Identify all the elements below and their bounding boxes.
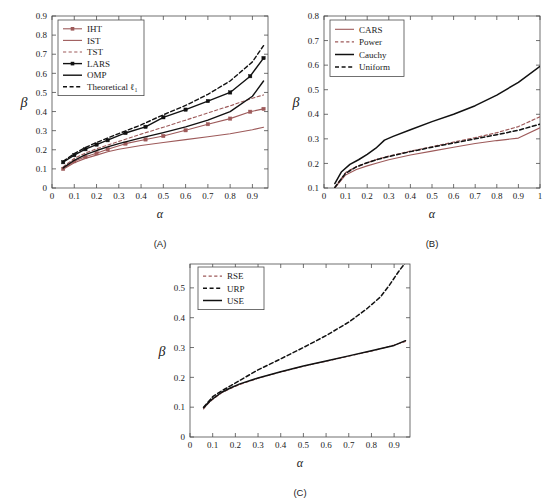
series-marker-A-3-12 [262,56,265,59]
x-tick-label-A-2: 0.2 [91,191,102,201]
x-tick-label-C-9: 0.9 [388,440,400,450]
y-tick-label-B-1: 0.2 [308,159,319,169]
y-tick-label-B-5: 0.6 [308,60,320,70]
legend-label-B-1: Power [359,37,382,47]
y-tick-label-C-0: 0 [181,432,186,442]
x-tick-label-C-1: 0.1 [207,440,218,450]
y-tick-label-B-3: 0.4 [308,109,320,119]
x-tick-label-A-8: 0.8 [225,191,237,201]
legend-label-B-0: CARS [359,25,383,35]
y-tick-label-A-6: 0.6 [36,69,48,79]
x-tick-label-B-10: 1 [538,191,543,201]
series-marker-A-0-10 [228,117,231,120]
x-axis-title-A: α [157,207,164,221]
chart-panel-b: 00.10.20.30.40.50.60.70.80.910.10.20.30.… [272,0,554,250]
series-marker-A-3-10 [228,91,231,94]
legend-label-C-1: URP [227,284,245,294]
x-tick-label-B-4: 0.4 [405,191,417,201]
legend-label-A-5: Theoretical ℓ₁ [87,82,138,92]
legend-marker-A-0 [71,27,75,31]
x-tick-label-B-2: 0.2 [362,191,373,201]
y-tick-label-B-2: 0.3 [308,134,320,144]
x-tick-label-C-3: 0.3 [252,440,264,450]
legend-label-C-2: USE [227,296,245,306]
x-tick-label-A-1: 0.1 [69,191,80,201]
x-tick-label-B-3: 0.3 [383,191,395,201]
x-tick-label-B-1: 0.1 [340,191,351,201]
y-tick-label-B-4: 0.5 [308,85,320,95]
x-tick-label-A-6: 0.6 [180,191,192,201]
x-tick-label-B-5: 0.5 [426,191,438,201]
x-tick-label-A-4: 0.4 [135,191,147,201]
y-tick-label-C-5: 0.5 [174,283,186,293]
x-tick-label-C-8: 0.8 [366,440,378,450]
series-marker-A-0-7 [162,134,165,137]
x-tick-label-A-9: 0.9 [247,191,259,201]
series-marker-A-0-8 [184,129,187,132]
x-tick-label-B-7: 0.7 [470,191,482,201]
x-tick-label-A-7: 0.7 [202,191,214,201]
legend-marker-A-3 [71,62,75,66]
panel-label-A: (A) [154,238,167,249]
x-axis-title-C: α [297,456,304,470]
y-tick-label-A-0: 0 [43,183,48,193]
legend-label-B-3: Uniform [359,62,390,72]
legend-label-B-2: Cauchy [359,50,387,60]
chart-svg-A: 00.10.20.30.40.50.60.70.80.900.10.20.30.… [0,0,280,250]
y-tick-label-B-0: 0.1 [308,183,319,193]
y-tick-label-C-3: 0.3 [174,343,186,353]
series-marker-A-0-11 [248,110,251,113]
y-tick-label-A-3: 0.3 [36,126,48,136]
x-tick-label-B-8: 0.8 [491,191,503,201]
x-tick-label-C-2: 0.2 [230,440,241,450]
x-tick-label-C-4: 0.4 [275,440,287,450]
y-tick-label-B-7: 0.8 [308,11,320,21]
legend-label-A-4: OMP [87,70,107,80]
y-axis-title-B: β [292,95,300,110]
x-tick-label-A-5: 0.5 [158,191,170,201]
x-tick-label-C-6: 0.6 [320,440,332,450]
series-marker-A-3-9 [206,99,209,102]
y-axis-title-C: β [158,344,166,359]
series-marker-A-3-8 [184,108,187,111]
series-marker-A-0-9 [206,122,209,125]
y-tick-label-A-4: 0.4 [36,107,48,117]
y-tick-label-A-2: 0.2 [36,145,47,155]
legend-label-C-0: RSE [227,271,244,281]
panel-label-C: (C) [293,487,306,498]
series-marker-A-3-6 [144,125,147,128]
x-tick-label-C-5: 0.5 [298,440,310,450]
y-tick-label-C-2: 0.2 [174,373,185,383]
x-tick-label-A-0: 0 [50,191,55,201]
series-marker-A-3-11 [248,75,251,78]
y-tick-label-A-8: 0.8 [36,30,48,40]
chart-panel-a: 00.10.20.30.40.50.60.70.80.900.10.20.30.… [0,0,280,250]
chart-svg-B: 00.10.20.30.40.50.60.70.80.910.10.20.30.… [272,0,554,250]
x-tick-label-C-0: 0 [188,440,193,450]
panel-label-B: (B) [426,238,439,249]
y-tick-label-A-5: 0.5 [36,88,48,98]
series-marker-A-0-6 [144,138,147,141]
legend-label-A-1: IST [87,36,101,46]
y-tick-label-C-1: 0.1 [174,402,185,412]
series-marker-A-0-12 [262,107,265,110]
legend-label-A-2: TST [87,47,104,57]
x-axis-title-B: α [429,207,436,221]
figure-phase-transition-plots: 00.10.20.30.40.50.60.70.80.900.10.20.30.… [0,0,554,499]
x-tick-label-B-9: 0.9 [513,191,525,201]
x-tick-label-B-0: 0 [322,191,327,201]
y-tick-label-A-1: 0.1 [36,164,47,174]
x-tick-label-A-3: 0.3 [113,191,125,201]
legend-label-A-0: IHT [87,24,102,34]
y-axis-title-A: β [20,95,28,110]
chart-svg-C: 00.10.20.30.40.50.60.70.80.900.10.20.30.… [132,250,432,499]
legend-label-A-3: LARS [87,59,110,69]
y-tick-label-C-4: 0.4 [174,313,186,323]
x-tick-label-C-7: 0.7 [343,440,355,450]
x-tick-label-B-6: 0.6 [448,191,460,201]
y-tick-label-B-6: 0.7 [308,36,320,46]
y-tick-label-A-7: 0.7 [36,49,48,59]
chart-panel-c: 00.10.20.30.40.50.60.70.80.900.10.20.30.… [132,250,432,499]
y-tick-label-A-9: 0.9 [36,11,48,21]
